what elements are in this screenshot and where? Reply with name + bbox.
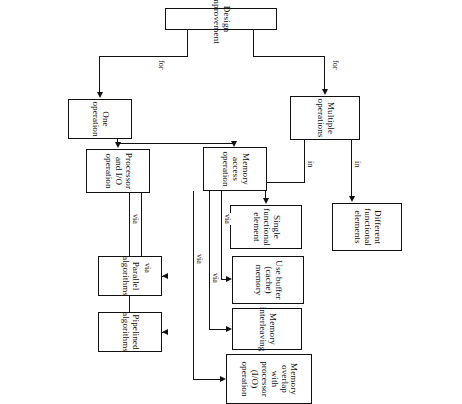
- edge-label-via-pipelined: via: [143, 262, 152, 274]
- edge-label-for-multiple: for: [331, 59, 340, 71]
- node-label: Different functional elements: [352, 206, 381, 248]
- node-memory-access-operation[interactable]: Memory access operation: [203, 147, 267, 191]
- node-label: Pipelined algorithms: [120, 312, 140, 352]
- arrow-to-processor-io-operation: [115, 142, 121, 148]
- edge-multiple-to-single-horizontal: [304, 140, 305, 182]
- node-use-buffer-cache-memory[interactable]: Use buffer (cache) memory: [232, 256, 304, 304]
- node-label: Memory interleaving: [257, 307, 277, 352]
- edge-label-via-interleaving: via: [211, 272, 220, 284]
- edge-label-in-single: in: [306, 160, 315, 168]
- arrow-to-different-functional-elements: [349, 196, 355, 202]
- node-different-functional-elements[interactable]: Different functional elements: [332, 203, 402, 251]
- edge-label-via-overlap: via: [195, 253, 204, 265]
- edge-label-in-different: in: [353, 160, 362, 168]
- arrow-to-parallel-algorithms: [162, 273, 168, 279]
- node-memory-overlap[interactable]: Memory overlap with processor (I/O) oper…: [226, 354, 312, 404]
- arrow-to-one-operation: [97, 92, 103, 98]
- node-label: Processor and I/O operation: [103, 152, 132, 190]
- edge-root-to-multiple-horizontal: [324, 56, 325, 90]
- node-multiple-operations[interactable]: Multiple operations: [290, 96, 360, 140]
- arrow-to-multiple-operations: [322, 89, 328, 95]
- node-label: One operation: [90, 101, 110, 136]
- edge-root-stub-top: [253, 30, 254, 57]
- edge-multiple-to-single-vertical: [266, 182, 305, 183]
- edge-label-for-one: for: [157, 59, 166, 71]
- edge-one-to-memory-vertical: [117, 143, 234, 144]
- edge-label-via-cache: via: [223, 213, 232, 225]
- node-label: Memory overlap with processor (I/O) oper…: [240, 357, 299, 401]
- node-label: Design improvement: [211, 0, 231, 44]
- edge-root-to-multiple-vertical: [253, 56, 325, 57]
- node-single-functional-element[interactable]: Single functional element: [230, 205, 302, 249]
- arrow-to-single-functional-element: [263, 198, 269, 204]
- edge-memory-to-cache-horizontal: [221, 191, 222, 279]
- edge-label-via-parallel: via: [131, 213, 140, 225]
- node-label: Use buffer (cache) memory: [253, 259, 282, 301]
- node-label: Multiple operations: [315, 99, 335, 138]
- edge-multiple-to-different: [351, 140, 352, 197]
- node-memory-interleaving[interactable]: Memory interleaving: [232, 308, 302, 350]
- node-design-improvement[interactable]: Design improvement: [165, 8, 277, 30]
- node-processor-io-operation[interactable]: Processor and I/O operation: [86, 149, 150, 193]
- edge-memory-to-interleaving-horizontal: [209, 191, 210, 329]
- edge-memory-to-overlap-vertical: [193, 379, 220, 380]
- node-one-operation[interactable]: One operation: [68, 99, 132, 139]
- node-pipelined-algorithms[interactable]: Pipelined algorithms: [98, 312, 162, 352]
- node-parallel-algorithms[interactable]: Parallel algorithms: [98, 256, 162, 296]
- node-label: Memory access operation: [220, 150, 249, 188]
- edge-root-stub-bottom: [187, 30, 188, 57]
- arrow-to-pipelined-algorithms: [162, 329, 168, 335]
- edge-memory-to-overlap-horizontal: [193, 191, 194, 379]
- edge-memory-to-interleaving-vertical: [209, 329, 226, 330]
- node-label: Parallel algorithms: [120, 256, 140, 296]
- edge-root-to-one-vertical: [100, 56, 188, 57]
- node-label: Single functional element: [251, 208, 280, 246]
- edge-root-to-one-horizontal: [99, 56, 100, 93]
